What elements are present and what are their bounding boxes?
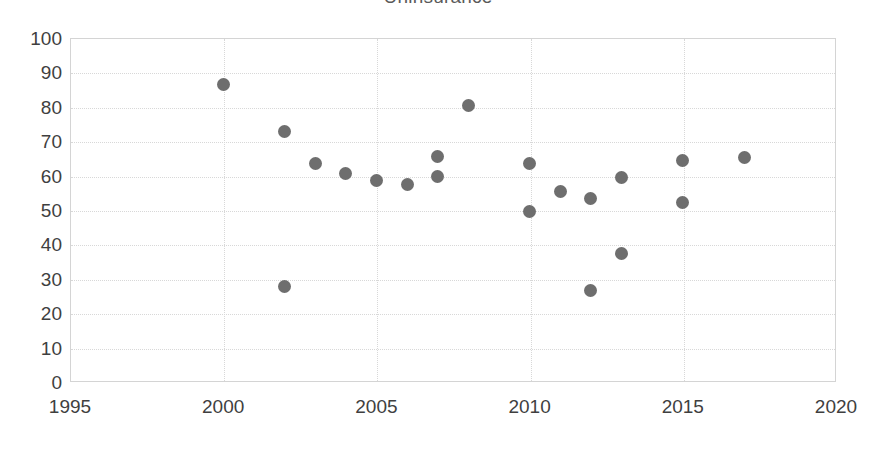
x-axis-tick-label: 2020 <box>796 396 876 418</box>
x-axis-tick-label: 2000 <box>183 396 263 418</box>
x-axis: 199520002005201020152020 <box>0 0 876 450</box>
x-axis-tick-label: 2005 <box>336 396 416 418</box>
x-axis-tick-label: 2010 <box>490 396 570 418</box>
scatter-chart: Uninsurance 0102030405060708090100 19952… <box>0 0 876 450</box>
x-axis-tick-label: 1995 <box>30 396 110 418</box>
x-axis-tick-label: 2015 <box>643 396 723 418</box>
